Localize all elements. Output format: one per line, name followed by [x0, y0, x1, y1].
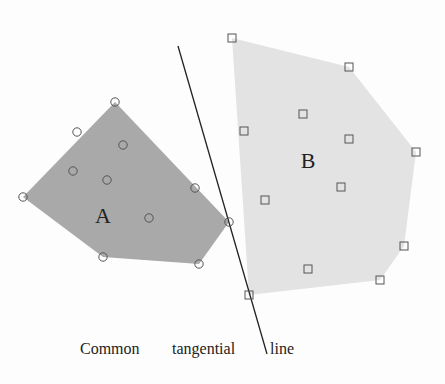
label-b: B — [301, 148, 316, 173]
label-a: A — [95, 203, 111, 228]
diagram-canvas: A B Common tangential line — [0, 0, 445, 384]
hull-b — [232, 38, 416, 295]
caption-line: line — [270, 340, 294, 357]
caption-common: Common — [80, 340, 140, 357]
hull-a — [23, 102, 229, 264]
point-a-circle — [73, 128, 81, 136]
caption-tangential: tangential — [172, 340, 236, 358]
convex-hull-diagram: A B Common tangential line — [0, 0, 445, 384]
